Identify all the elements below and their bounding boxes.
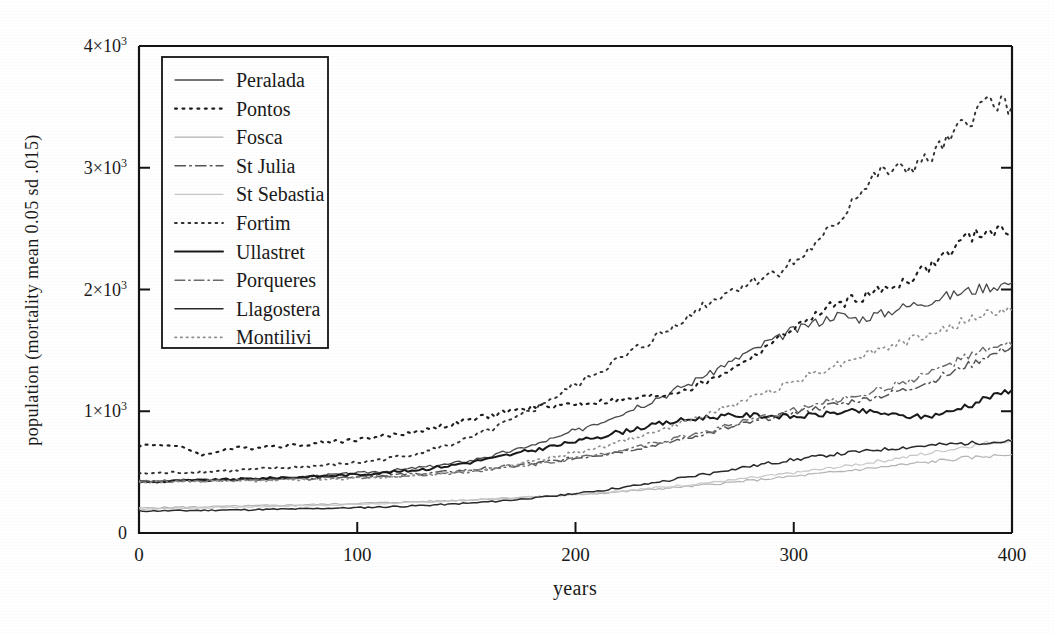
x-axis-label: years [553,577,597,600]
legend-label-fosca: Fosca [236,126,283,148]
legend: PeraladaPontosFoscaSt JuliaSt SebastiaFo… [162,57,328,348]
legend-label-st-sebastia: St Sebastia [236,183,324,205]
x-tick-label: 0 [134,544,144,565]
y-tick-label: 2×103 [84,278,127,300]
x-tick-label: 100 [343,544,372,565]
legend-label-fortim: Fortim [236,212,291,234]
legend-label-llagostera: Llagostera [236,298,321,321]
x-tick-label: 200 [561,544,590,565]
x-tick-label: 300 [780,544,809,565]
y-tick-label: 4×103 [84,34,127,56]
legend-label-peralada: Peralada [236,69,305,91]
y-tick-label: 0 [118,523,127,543]
legend-label-porqueres: Porqueres [236,269,316,292]
y-tick-label: 3×103 [84,156,127,178]
y-axis-label: population (mortality mean 0.05 sd .015) [22,134,43,445]
legend-label-st-julia: St Julia [236,155,296,177]
line-chart: 0100200300400 01×1032×1033×1034×103 year… [0,0,1054,633]
chart-background [0,0,1054,633]
legend-label-ullastret: Ullastret [236,241,305,263]
legend-label-montilivi: Montilivi [236,326,312,348]
legend-label-pontos: Pontos [236,98,291,120]
chart-figure: 0100200300400 01×1032×1033×1034×103 year… [0,0,1054,633]
y-tick-label: 1×103 [84,399,127,421]
x-tick-label: 400 [998,544,1027,565]
